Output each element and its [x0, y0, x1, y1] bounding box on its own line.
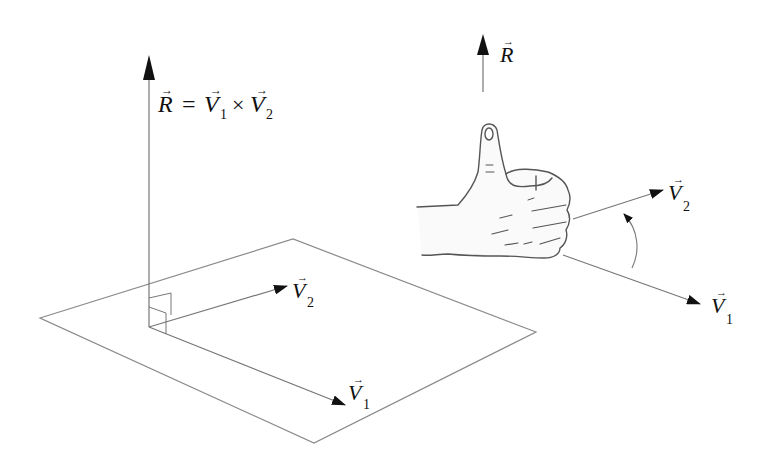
eq-times: ×	[232, 92, 244, 117]
v1-label-left: V → 1	[348, 373, 370, 412]
plane	[40, 239, 536, 443]
rotation-arrow	[624, 214, 637, 268]
r-vector-arrow-right	[477, 34, 489, 92]
vector-arrow-icon: →	[297, 271, 308, 283]
vector-arrow-icon: →	[716, 286, 727, 298]
eq-equals: =	[182, 91, 196, 117]
r-label-right: R →	[499, 35, 514, 67]
eq-v2-sub: 2	[266, 107, 273, 122]
vector-arrow-icon: →	[503, 35, 514, 47]
v1-label-right: V → 1	[711, 286, 733, 327]
v2-vector-arrow-right	[573, 190, 663, 219]
v1-vector-arrow	[149, 327, 345, 405]
vector-arrow-icon: →	[353, 373, 364, 385]
right-hand-icon	[417, 124, 570, 258]
svg-text:1: 1	[363, 397, 370, 412]
cross-product-equation: R → = V → 1 × V → 2	[157, 83, 273, 122]
vector-arrow-icon: →	[673, 173, 684, 185]
vector-arrow-icon: →	[161, 83, 173, 97]
v2-label-left: V → 2	[292, 271, 314, 310]
svg-text:2: 2	[307, 295, 314, 310]
v2-label-right: V → 2	[668, 173, 690, 214]
right-hand-rule-diagram: R → = V → 1 × V → 2 V → 2 V → 1 R →	[0, 0, 774, 470]
vector-arrow-icon: →	[256, 83, 268, 97]
v1-vector-arrow-right	[563, 255, 700, 304]
svg-text:1: 1	[726, 312, 733, 327]
r-vector-arrow	[143, 55, 155, 327]
vector-arrow-icon: →	[210, 83, 222, 97]
svg-text:2: 2	[683, 199, 690, 214]
v2-vector-arrow	[149, 286, 287, 327]
eq-v1-sub: 1	[220, 107, 227, 122]
